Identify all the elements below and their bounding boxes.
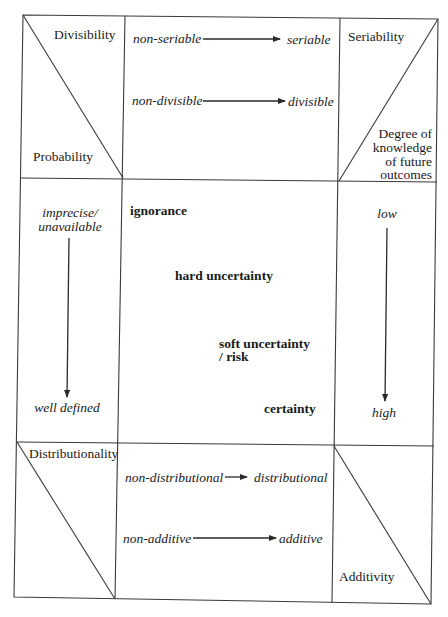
- distributional-label: distributional: [254, 470, 328, 485]
- ignorance-label: ignorance: [130, 203, 187, 218]
- low-label: low: [365, 206, 409, 221]
- arrow-knowledge-level: [385, 228, 387, 401]
- hard-uncertainty-label: hard uncertainty: [175, 268, 273, 283]
- additivity-label: Additivity: [339, 569, 395, 584]
- imprecise-label: imprecise/: [25, 205, 115, 220]
- probability-label: Probability: [33, 149, 93, 164]
- seriability-label: Seriability: [348, 29, 404, 44]
- high-label: high: [362, 405, 406, 420]
- divisibility-label: Divisibility: [54, 27, 116, 42]
- diagonal-bottom-left: [17, 442, 115, 599]
- non-additive-label: non-additive: [123, 531, 191, 546]
- knowledge-label-line-4: outcomes: [360, 167, 432, 182]
- divisible-label: divisible: [288, 94, 334, 109]
- seriable-label: seriable: [287, 32, 331, 47]
- grid-lines: [0, 0, 448, 617]
- well-defined-label: well defined: [22, 400, 112, 415]
- uncertainty-matrix-diagram: Divisibility Probability non-seriable se…: [0, 0, 448, 617]
- non-divisible-label: non-divisible: [132, 93, 203, 108]
- knowledge-label-line-1: Degree of: [360, 126, 432, 141]
- certainty-label: certainty: [264, 401, 316, 416]
- column-divider-left: [115, 16, 125, 599]
- additive-label: additive: [279, 531, 323, 546]
- arrow-probability-definition: [67, 238, 69, 397]
- distributionality-label: Distributionality: [29, 446, 118, 461]
- risk-label: / risk: [219, 349, 249, 364]
- non-seriable-label: non-seriable: [133, 31, 201, 46]
- knowledge-label-line-2: knowledge: [360, 140, 432, 155]
- unavailable-label: unavailable: [25, 219, 115, 234]
- non-distributional-label: non-distributional: [125, 470, 223, 485]
